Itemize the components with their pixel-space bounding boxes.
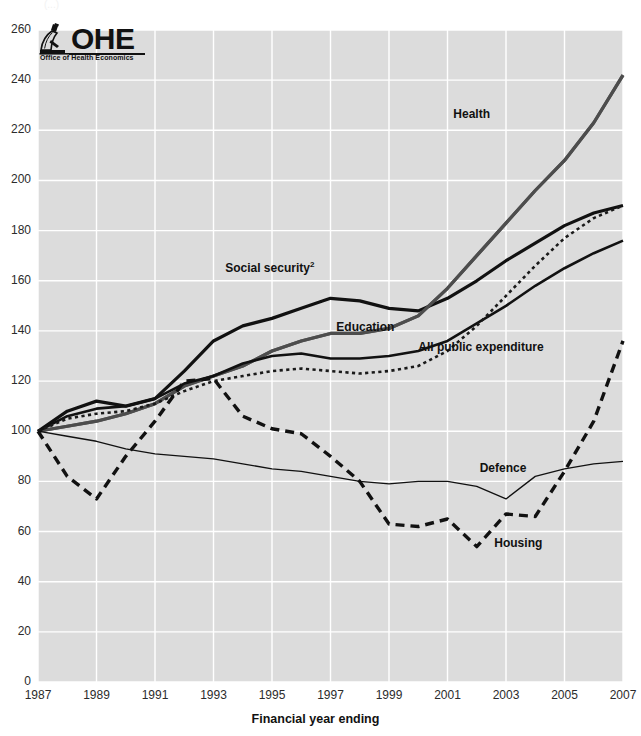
x-axis-tick-label: 1987	[13, 688, 63, 702]
y-axis-tick-label: 180	[0, 223, 31, 237]
y-axis-tick-label: 120	[0, 373, 31, 387]
x-axis-tick-label: 1993	[189, 688, 239, 702]
y-axis-tick-label: 140	[0, 323, 31, 337]
series-label-health: Health	[453, 107, 490, 121]
x-axis-tick-label: 1991	[130, 688, 180, 702]
y-axis-tick-label: 40	[0, 574, 31, 588]
series-label-all-public-expenditure: All public expenditure	[418, 340, 543, 354]
series-line-social-security	[38, 206, 623, 432]
y-axis-tick-label: 80	[0, 473, 31, 487]
y-axis-tick-label: 220	[0, 122, 31, 136]
y-axis-tick-label: 0	[0, 674, 31, 688]
x-axis-tick-label: 2007	[598, 688, 641, 702]
y-axis-tick-label: 240	[0, 72, 31, 86]
x-axis-tick-label: 1989	[72, 688, 122, 702]
y-axis-tick-label: 160	[0, 273, 31, 287]
x-axis-tick-label: 1995	[247, 688, 297, 702]
y-axis-tick-label: 60	[0, 524, 31, 538]
ohe-logo: OHE Office of Health Economics	[39, 24, 147, 68]
series-line-all-public-expenditure	[38, 241, 623, 432]
series-label-housing: Housing	[494, 536, 542, 550]
x-axis-tick-label: 1997	[306, 688, 356, 702]
series-line-health	[38, 75, 623, 431]
x-axis-tick-label: 2003	[481, 688, 531, 702]
series-label-defence: Defence	[480, 461, 527, 475]
x-axis-tick-label: 2005	[540, 688, 590, 702]
series-line-housing	[38, 341, 623, 547]
microscope-icon	[39, 22, 73, 58]
y-axis-tick-label: 20	[0, 624, 31, 638]
series-line-education	[38, 75, 623, 431]
ohe-wordmark: OHE	[71, 22, 135, 56]
x-axis-title: Financial year ending	[0, 712, 631, 726]
y-axis-tick-label: 200	[0, 172, 31, 186]
x-axis-tick-label: 1999	[364, 688, 414, 702]
ohe-subtitle: Office of Health Economics	[40, 54, 134, 61]
x-axis-tick-label: 2001	[423, 688, 473, 702]
footnote-marker: 2	[310, 260, 314, 269]
series-label-education: Education	[336, 320, 394, 334]
series-label-social-security: Social security2	[225, 260, 314, 275]
series-line-education-dotted	[38, 206, 623, 432]
y-axis-tick-label: 260	[0, 22, 31, 36]
y-axis-tick-label: 100	[0, 423, 31, 437]
series-line-defence	[38, 431, 623, 499]
